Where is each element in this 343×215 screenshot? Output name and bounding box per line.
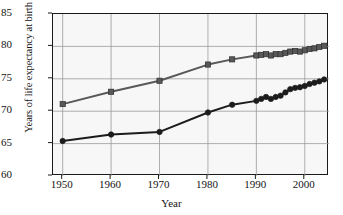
x-tick-label: 1980 [184, 179, 230, 190]
y-tick-label: 65 [0, 137, 12, 148]
y-tick-label: 75 [0, 72, 12, 83]
x-tick-label: 1990 [232, 179, 278, 190]
chart-figure: Years of life expectancy at birth 606570… [0, 0, 343, 215]
x-axis-label: Year [0, 197, 343, 209]
y-tick-label: 60 [0, 169, 12, 180]
y-axis-label: Years of life expectancy at birth [23, 0, 34, 148]
x-tick-label: 2000 [281, 179, 327, 190]
y-tick-label: 85 [0, 7, 12, 18]
x-tick-label: 1970 [136, 179, 182, 190]
x-tick-label: 1950 [39, 179, 85, 190]
plot-area [52, 13, 328, 175]
x-tick-label: 1960 [87, 179, 133, 190]
y-tick-label: 80 [0, 39, 12, 50]
data-series-layer [53, 14, 329, 176]
y-tick-label: 70 [0, 104, 12, 115]
